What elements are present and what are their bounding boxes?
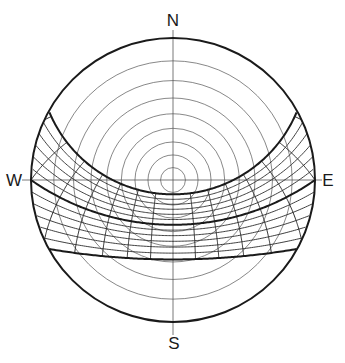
east-label: E xyxy=(322,172,333,189)
sun-path-diagram xyxy=(0,0,345,363)
south-label: S xyxy=(168,335,179,352)
north-label: N xyxy=(167,12,179,29)
west-label: W xyxy=(6,172,22,189)
